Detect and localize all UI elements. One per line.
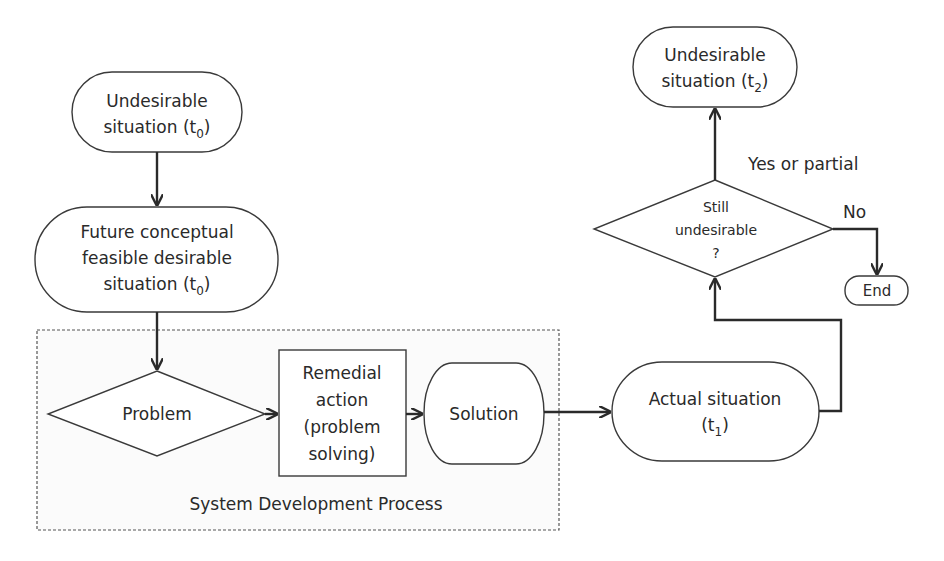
svg-text:Solution: Solution: [449, 404, 518, 424]
svg-text:solving): solving): [309, 444, 376, 464]
node-end: End: [845, 276, 908, 305]
edge-label-yes-or-partial: Yes or partial: [747, 154, 858, 174]
svg-text:feasible desirable: feasible desirable: [82, 248, 232, 268]
node-solution: Solution: [424, 363, 544, 464]
node-undesirable-situation-t2: Undesirable situation (t2): [633, 27, 797, 107]
node-undesirable-situation-t0: Undesirable situation (t0): [72, 72, 242, 152]
svg-text:?: ?: [712, 245, 719, 261]
edge-decision-no: [833, 229, 877, 274]
svg-text:Undesirable: Undesirable: [106, 91, 207, 111]
svg-text:action: action: [316, 390, 368, 410]
node-still-undesirable-decision: Still undesirable ?: [594, 180, 833, 277]
svg-text:Remedial: Remedial: [302, 363, 381, 383]
svg-text:Problem: Problem: [122, 404, 192, 424]
node-remedial-action: Remedial action (problem solving): [279, 350, 406, 476]
node-actual-situation-t1: Actual situation (t1): [612, 362, 819, 461]
container-label: System Development Process: [189, 494, 442, 514]
svg-text:Undesirable: Undesirable: [664, 45, 765, 65]
svg-text:Actual situation: Actual situation: [649, 389, 782, 409]
svg-text:End: End: [863, 282, 892, 300]
edge-label-no: No: [843, 202, 866, 222]
svg-text:undesirable: undesirable: [675, 222, 757, 238]
svg-text:Future conceptual: Future conceptual: [80, 222, 233, 242]
node-future-desirable-situation: Future conceptual feasible desirable sit…: [35, 207, 278, 312]
svg-text:(problem: (problem: [304, 417, 381, 437]
svg-text:Still: Still: [703, 199, 729, 215]
flowchart: System Development Process Undesirable s…: [0, 0, 944, 561]
